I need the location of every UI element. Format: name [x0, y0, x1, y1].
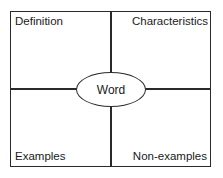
quadrant-label-characteristics: Characteristics — [132, 15, 208, 28]
center-oval: Word — [76, 72, 146, 107]
quadrant-label-definition: Definition — [15, 15, 63, 28]
center-word-label: Word — [97, 83, 125, 97]
quadrant-label-examples: Examples — [15, 150, 66, 163]
quadrant-label-non-examples: Non-examples — [133, 150, 207, 163]
